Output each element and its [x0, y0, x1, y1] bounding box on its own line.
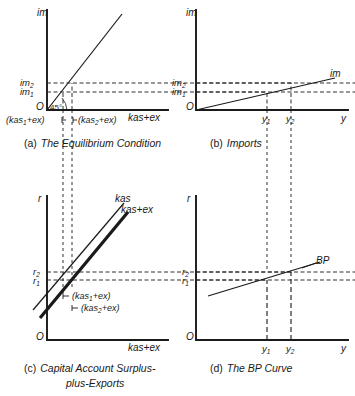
- panel-a-kas2-annotation: (kas2+ex): [78, 115, 116, 126]
- panel-b-y1-tick-label: y1: [261, 113, 271, 125]
- panel-b-caption: (b)Imports: [210, 137, 263, 149]
- panel-d-x-axis-label: y: [340, 343, 347, 354]
- panel-c-kas1-arrow: [63, 293, 69, 299]
- panel-b-axes: [196, 10, 348, 110]
- panel-b-y2-tick-label: y2: [285, 113, 295, 125]
- panel-a-x-axis-label: kas+ex: [128, 112, 161, 123]
- panel-b-im2-label: im2: [172, 77, 186, 89]
- panel-d-bp-label: BP: [316, 255, 330, 266]
- panel-a-origin-label: O: [36, 101, 44, 112]
- panel-b-curve-label: im: [330, 68, 341, 79]
- panel-c: kas kas+ex r2 r1 (kas1+ex) (kas2+ex) r k…: [24, 193, 355, 389]
- panel-a-im2-label: im2: [20, 77, 34, 89]
- panel-c-origin-label: O: [36, 331, 44, 342]
- panel-d-bp-leader-line: [302, 263, 316, 268]
- panel-c-axes: [47, 196, 168, 340]
- panel-d-y2-tick-label: y2: [285, 343, 295, 355]
- panel-a-axes: [47, 10, 168, 110]
- panel-d-y1-tick-label: y1: [261, 343, 271, 355]
- panel-d-origin-label: O: [186, 331, 194, 342]
- panel-a-45-degree-line: [47, 14, 122, 110]
- panel-b: im im1 im2 y1 y2 im y O (b)Imports: [172, 7, 348, 149]
- panel-d-y-axis-label: r: [187, 193, 191, 204]
- panel-b-origin-label: O: [186, 101, 194, 112]
- panel-c-kas2-arrow: [72, 305, 78, 311]
- panel-c-kas-label: kas: [115, 193, 131, 204]
- panel-d: BP r2 r1 y1 y2 r y O (d)The BP Curve: [182, 193, 348, 374]
- panel-a-caption: (a)The Equilibrium Condition: [24, 137, 161, 149]
- panel-a-kas1-annotation: (kas1+ex): [6, 115, 44, 126]
- panel-d-caption: (d)The BP Curve: [210, 362, 293, 374]
- panel-c-caption-line-2: plus-Exports: [65, 377, 125, 389]
- panel-c-x-axis-label: kas+ex: [128, 342, 161, 353]
- panel-a-y-axis-label: im: [37, 7, 48, 18]
- panel-c-caption-line-1: (c)Capital Account Surplus-: [24, 362, 156, 374]
- figure-root: im1 im2 im kas+ex O 45° (kas1+ex) (kas2+…: [0, 0, 355, 396]
- four-panel-diagram: im1 im2 im kas+ex O 45° (kas1+ex) (kas2+…: [0, 0, 355, 396]
- panel-b-y-axis-label: im: [186, 7, 197, 18]
- panel-c-y-axis-label: r: [38, 193, 42, 204]
- panel-c-kas-plus-ex-label: kas+ex: [121, 204, 154, 215]
- panel-d-axes: [196, 196, 348, 340]
- panel-a-angle-label: 45°: [50, 103, 62, 112]
- panel-c-kas2-annotation: (kas2+ex): [81, 303, 119, 314]
- panel-a-kas2-arrow: [73, 117, 77, 123]
- panel-b-x-axis-label: y: [340, 113, 347, 124]
- panel-c-kas1-annotation: (kas1+ex): [72, 291, 110, 302]
